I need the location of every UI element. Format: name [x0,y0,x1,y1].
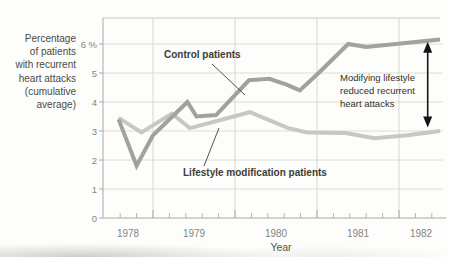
y-tick-label: 1 [40,184,97,195]
y-tick-label: 2 [40,155,97,166]
annotation-text: Modifying lifestyle reduced recurrent he… [340,71,415,110]
control-series-label: Control patients [164,49,241,60]
x-tick-label: 1982 [399,228,443,239]
arrowhead-down-icon [423,117,432,128]
x-tick-label: 1980 [254,228,298,239]
y-tick-label: 5 [40,68,97,79]
x-axis-label: Year [256,241,306,253]
y-tick-label: 6 % [40,39,97,50]
y-tick-label: 3 [40,126,97,137]
lifestyle-series-label: Lifestyle modification patients [183,167,327,178]
y-tick-label: 4 [40,97,97,108]
y-tick-label: 0 [40,213,97,224]
figure-recurrent-heart-attacks-chart: Percentage of patients with recurrent he… [0,0,449,257]
arrowhead-up-icon [423,42,432,53]
x-tick-label: 1978 [106,228,150,239]
x-tick-label: 1981 [336,228,380,239]
control-leader-line [212,64,245,95]
x-tick-label: 1979 [172,228,216,239]
lifestyle-line [119,112,440,138]
